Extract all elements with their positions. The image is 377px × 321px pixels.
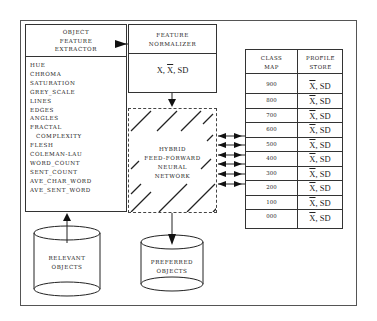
stat-sd: SD — [177, 65, 188, 75]
header-profile-store: PROFILE STORE — [298, 54, 343, 72]
table-row: 900 X, SD — [246, 74, 342, 94]
feature-item: EDGES — [30, 106, 126, 115]
extractor-title: OBJECT FEATURE EXTRACTOR — [26, 25, 126, 57]
preferred-objects-label: PREFERRED OBJECTS — [141, 258, 203, 276]
profile-value: X, SD — [298, 213, 342, 223]
feature-item: FRACTAL — [30, 123, 126, 132]
network-label: HYBRID FEED-FORWARD NEURAL NETWORK — [129, 145, 216, 181]
feature-item: HUE — [30, 61, 126, 70]
profile-value: X, SD — [298, 183, 342, 193]
table-row: 200 X, SD — [246, 181, 342, 196]
sd: SD — [320, 125, 331, 135]
sd: SD — [320, 198, 331, 208]
class-value: 800 — [246, 97, 297, 103]
feature-item: AVE_SENT_WORD — [30, 186, 126, 195]
feature-item: FLESH — [30, 141, 126, 150]
header-line: CLASS — [246, 54, 297, 63]
network-label-line: NETWORK — [129, 172, 216, 181]
header-line: PROFILE — [298, 54, 343, 63]
sd: SD — [320, 140, 331, 150]
class-value: 500 — [246, 141, 297, 147]
table-row: 100 X, SD — [246, 196, 342, 211]
relevant-label-line: RELEVANT — [34, 254, 100, 263]
feature-item: SENT_COUNT — [30, 168, 126, 177]
network-label-line: HYBRID — [129, 145, 216, 154]
preferred-label-line: OBJECTS — [141, 267, 203, 276]
feature-item: AVE_CHAR_WORD — [30, 177, 126, 186]
extractor-title-line: EXTRACTOR — [26, 45, 126, 54]
feature-item: ANGLES — [30, 114, 126, 123]
class-value: 700 — [246, 112, 297, 118]
header-line: MAP — [246, 63, 297, 72]
sd: SD — [320, 81, 331, 91]
profile-value: X, SD — [298, 81, 342, 91]
sd: SD — [320, 213, 331, 223]
table-row: 500 X, SD — [246, 138, 342, 153]
normalizer-title: FEATURE NORMALIZER — [129, 25, 216, 54]
feature-item: CHROMA — [30, 70, 126, 79]
network-label-line: FEED-FORWARD — [129, 154, 216, 163]
class-value: 300 — [246, 170, 297, 176]
feature-item: WORD_COUNT — [30, 159, 126, 168]
extractor-title-line: OBJECT — [26, 28, 126, 37]
feature-item: COMPLEXITY — [30, 132, 126, 141]
feature-item: GREY_SCALE — [30, 88, 126, 97]
relevant-label-line: OBJECTS — [34, 263, 100, 272]
feature-item: SATURATION — [30, 79, 126, 88]
neural-network-box: HYBRID FEED-FORWARD NEURAL NETWORK — [128, 108, 217, 213]
header-line: STORE — [298, 63, 343, 72]
feature-list: HUE CHROMA SATURATION GREY_SCALE LINES E… — [26, 57, 126, 195]
object-feature-extractor: OBJECT FEATURE EXTRACTOR HUE CHROMA SATU… — [25, 24, 127, 212]
normalizer-title-line: NORMALIZER — [129, 40, 216, 49]
header-class-map: CLASS MAP — [246, 54, 297, 72]
table-row: 400 X, SD — [246, 152, 342, 167]
table-row: 800 X, SD — [246, 94, 342, 109]
sd: SD — [320, 154, 331, 164]
table-row: 700 X, SD — [246, 109, 342, 124]
class-value: 400 — [246, 155, 297, 161]
preferred-label-line: PREFERRED — [141, 258, 203, 267]
profile-value: X, SD — [298, 96, 342, 106]
class-value: 100 — [246, 199, 297, 205]
profile-value: X, SD — [298, 111, 342, 121]
normalizer-stats: X, X, SD — [129, 54, 216, 75]
class-value: 000 — [246, 213, 297, 219]
feature-item: COLEMAN-LAU — [30, 150, 126, 159]
relevant-objects-label: RELEVANT OBJECTS — [34, 254, 100, 272]
class-profile-table: CLASS MAP PROFILE STORE 900 X, SD 800 X,… — [245, 49, 343, 229]
class-value: 600 — [246, 126, 297, 132]
class-value: 900 — [246, 81, 297, 87]
profile-value: X, SD — [298, 140, 342, 150]
feature-normalizer: FEATURE NORMALIZER X, X, SD — [128, 24, 217, 93]
sd: SD — [320, 169, 331, 179]
profile-value: X, SD — [298, 198, 342, 208]
feature-item: LINES — [30, 97, 126, 106]
table-row: 000 X, SD — [246, 210, 342, 228]
class-value: 200 — [246, 184, 297, 190]
profile-value: X, SD — [298, 154, 342, 164]
network-label-line: NEURAL — [129, 163, 216, 172]
normalizer-title-line: FEATURE — [129, 31, 216, 40]
sd: SD — [320, 111, 331, 121]
table-row: 600 X, SD — [246, 123, 342, 138]
sd: SD — [320, 96, 331, 106]
extractor-title-line: FEATURE — [26, 37, 126, 46]
table-row: 300 X, SD — [246, 167, 342, 182]
profile-value: X, SD — [298, 169, 342, 179]
sd: SD — [320, 183, 331, 193]
profile-value: X, SD — [298, 125, 342, 135]
